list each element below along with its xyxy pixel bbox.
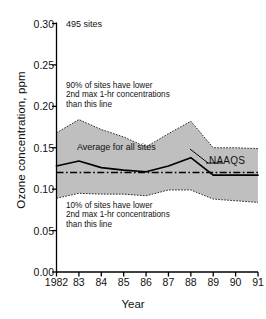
ozone-concentration-chart: 0.000.050.100.150.200.250.30 19828384858…: [0, 0, 266, 319]
x-axis-tick-label: 85: [118, 277, 130, 287]
sites-count-annotation: 495 sites: [66, 20, 102, 29]
x-axis-tick-label: 86: [140, 277, 152, 287]
x-axis-tick-label: 84: [95, 277, 107, 287]
lower-band-annotation: 10% of sites have lower 2nd max 1-hr con…: [66, 201, 170, 229]
x-axis-tick-label: 87: [163, 277, 175, 287]
x-axis-title: Year: [0, 298, 266, 310]
x-axis-tick-label: 88: [185, 277, 197, 287]
x-axis-tick-label: 90: [230, 277, 242, 287]
upper-band-annotation: 90% of sites have lower 2nd max 1-hr con…: [66, 81, 170, 109]
x-axis-tick-labels: 1982838485868788899091: [0, 277, 266, 293]
upper-band-annotation-text: 90% of sites have lower 2nd max 1-hr con…: [66, 81, 170, 109]
x-axis-tick-label: 91: [252, 277, 264, 287]
x-axis-tick-label: 89: [207, 277, 219, 287]
y-axis-tick-label: 0.30: [20, 19, 54, 29]
average-line-label: Average for all sites: [77, 143, 156, 152]
y-axis-title: Ozone concentration, ppm: [15, 45, 27, 235]
x-axis-tick-label: 1982: [45, 277, 68, 287]
lower-band-annotation-text: 10% of sites have lower 2nd max 1-hr con…: [66, 201, 170, 229]
naaqs-label: NAAQS: [209, 156, 245, 165]
x-axis-tick-label: 83: [73, 277, 85, 287]
